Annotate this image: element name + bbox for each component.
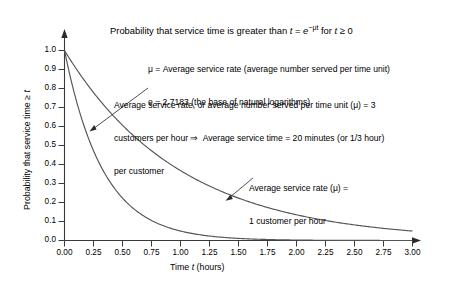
x-tick-label: 2.50 <box>339 248 371 257</box>
chart-title-equals: = <box>292 25 303 36</box>
x-axis-title: Time t (hours) <box>170 262 224 273</box>
y-tick-label: 0.7 <box>30 102 56 111</box>
annotation-mu-3-line-1: Average service rate, or average number … <box>114 100 384 111</box>
x-tick-label: 1.50 <box>223 248 255 257</box>
x-tick-label: 2.75 <box>368 248 400 257</box>
chart-title-exponent: −μt <box>308 24 318 31</box>
x-tick-label: 0.75 <box>136 248 168 257</box>
annotation-mu-1-line-2: 1 customer per hour <box>249 216 348 227</box>
annotation-mu-3-line-2: customers per hour ⇒ Average service tim… <box>114 133 384 144</box>
y-tick-label: 0.8 <box>30 83 56 92</box>
chart-title-ge: ≥ 0 <box>337 25 353 36</box>
leader-arrow-mu3-icon <box>90 125 97 132</box>
chart-title-prefix: Probability that service time is greater… <box>110 25 290 36</box>
y-axis-arrow-icon <box>61 29 67 38</box>
x-axis-arrow-icon <box>412 237 421 243</box>
x-tick-label: 1.00 <box>165 248 197 257</box>
x-tick-label: 2.25 <box>310 248 342 257</box>
annotation-mu-1: Average service rate (μ) = 1 customer pe… <box>249 161 348 249</box>
x-tick-label: 3.00 <box>397 248 429 257</box>
x-tick-label: 0.25 <box>78 248 110 257</box>
x-tick-label: 1.25 <box>194 248 226 257</box>
x-axis-title-post: (hours) <box>194 262 224 272</box>
chart-title: Probability that service time is greater… <box>110 24 353 37</box>
y-tick-label: 0.2 <box>30 197 56 206</box>
y-tick-label: 0.4 <box>30 159 56 168</box>
x-tick-label: 1.75 <box>252 248 284 257</box>
y-tick-label: 0.9 <box>30 64 56 73</box>
x-axis-ticks <box>65 241 413 247</box>
annotation-mu-1-line-1: Average service rate (μ) = <box>249 183 348 194</box>
x-tick-label: 0.00 <box>49 248 81 257</box>
x-tick-label: 2.00 <box>281 248 313 257</box>
y-axis-ticks <box>59 51 65 241</box>
y-tick-label: 0.3 <box>30 178 56 187</box>
x-axis-title-prefix: Time <box>170 262 192 272</box>
chart-title-suffix: for <box>318 25 334 36</box>
note-mu-definition: μ = Average service rate (average number… <box>148 64 390 75</box>
y-tick-label: 0.1 <box>30 216 56 225</box>
y-tick-label: 1.0 <box>30 45 56 54</box>
x-tick-label: 0.50 <box>107 248 139 257</box>
exponential-service-time-chart: Probability that service time is greater… <box>0 0 457 288</box>
y-tick-label: 0.5 <box>30 140 56 149</box>
y-tick-label: 0.6 <box>30 121 56 130</box>
y-tick-label: 0.0 <box>30 235 56 244</box>
